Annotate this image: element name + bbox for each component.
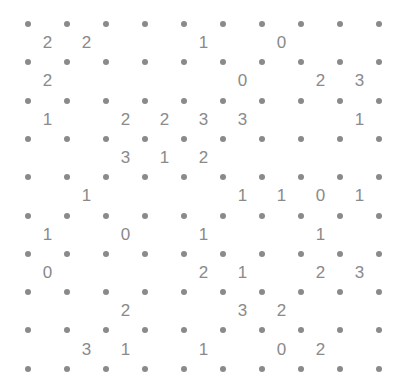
puzzle-cell[interactable] [67,292,106,330]
puzzle-cell[interactable] [262,101,301,139]
puzzle-cell[interactable] [262,254,301,292]
puzzle-cell[interactable] [145,177,184,215]
puzzle-cell[interactable] [301,24,340,62]
puzzle-cell[interactable] [301,292,340,330]
puzzle-cell[interactable]: 3 [340,254,379,292]
puzzle-cell[interactable] [28,292,67,330]
puzzle-cell[interactable]: 1 [262,177,301,215]
puzzle-cell[interactable]: 2 [184,254,223,292]
puzzle-cell[interactable] [223,331,262,369]
puzzle-cell[interactable] [145,216,184,254]
puzzle-cell[interactable]: 2 [67,24,106,62]
puzzle-cell[interactable]: 1 [184,216,223,254]
puzzle-cell[interactable]: 1 [145,139,184,177]
puzzle-cell[interactable] [28,331,67,369]
puzzle-cell[interactable]: 0 [301,177,340,215]
puzzle-cell[interactable] [262,139,301,177]
puzzle-cell[interactable] [223,24,262,62]
puzzle-cell[interactable]: 1 [106,331,145,369]
puzzle-cell[interactable]: 1 [340,177,379,215]
puzzle-cell[interactable] [106,24,145,62]
puzzle-cell[interactable]: 3 [67,331,106,369]
puzzle-cell[interactable]: 2 [301,331,340,369]
puzzle-cell[interactable]: 2 [28,24,67,62]
puzzle-cell[interactable]: 3 [223,101,262,139]
puzzle-cell[interactable] [184,292,223,330]
puzzle-cell[interactable] [223,139,262,177]
puzzle-cell[interactable] [223,216,262,254]
puzzle-cell[interactable]: 2 [184,139,223,177]
puzzle-cell[interactable] [145,24,184,62]
puzzle-cell[interactable]: 1 [184,331,223,369]
puzzle-cell[interactable]: 2 [28,62,67,100]
puzzle-cell[interactable] [67,216,106,254]
puzzle-cell[interactable]: 1 [223,254,262,292]
puzzle-cell[interactable]: 0 [262,331,301,369]
puzzle-cell[interactable]: 0 [262,24,301,62]
puzzle-cell[interactable]: 1 [184,24,223,62]
puzzle-cell[interactable] [28,139,67,177]
puzzle-cell[interactable] [145,292,184,330]
puzzle-cell[interactable]: 0 [28,254,67,292]
puzzle-cell[interactable] [262,62,301,100]
puzzle-cell[interactable]: 3 [106,139,145,177]
puzzle-cell[interactable] [262,216,301,254]
puzzle-cell[interactable]: 1 [340,101,379,139]
puzzle-cell[interactable] [145,331,184,369]
puzzle-cell[interactable]: 2 [262,292,301,330]
puzzle-cell[interactable]: 0 [106,216,145,254]
puzzle-cell[interactable]: 1 [67,177,106,215]
slitherlink-board: 221020231223313121110110110212323231102 [0,0,411,389]
puzzle-cell[interactable] [145,62,184,100]
puzzle-cell[interactable] [301,139,340,177]
puzzle-cell[interactable]: 1 [301,216,340,254]
puzzle-cell[interactable] [67,62,106,100]
puzzle-cell[interactable] [67,139,106,177]
puzzle-cell[interactable] [184,62,223,100]
puzzle-cell[interactable] [184,177,223,215]
puzzle-cell[interactable] [106,62,145,100]
puzzle-cell[interactable] [67,101,106,139]
puzzle-cell[interactable] [106,177,145,215]
puzzle-cell[interactable] [340,331,379,369]
puzzle-cell[interactable] [340,292,379,330]
puzzle-cell[interactable] [145,254,184,292]
puzzle-cell[interactable] [340,24,379,62]
puzzle-cell[interactable]: 2 [145,101,184,139]
puzzle-cell[interactable] [106,254,145,292]
puzzle-cell[interactable]: 2 [106,292,145,330]
puzzle-cell[interactable]: 0 [223,62,262,100]
puzzle-cell[interactable]: 3 [340,62,379,100]
puzzle-cell[interactable]: 2 [301,254,340,292]
puzzle-cell[interactable]: 3 [184,101,223,139]
puzzle-cell[interactable]: 1 [28,101,67,139]
puzzle-cell[interactable] [28,177,67,215]
puzzle-cell[interactable] [67,254,106,292]
puzzle-cell[interactable] [340,139,379,177]
puzzle-cell[interactable]: 1 [223,177,262,215]
puzzle-cell[interactable]: 2 [301,62,340,100]
puzzle-cell[interactable] [301,101,340,139]
puzzle-cell[interactable]: 3 [223,292,262,330]
puzzle-cell[interactable]: 1 [28,216,67,254]
puzzle-cell[interactable]: 2 [106,101,145,139]
puzzle-cell[interactable] [340,216,379,254]
